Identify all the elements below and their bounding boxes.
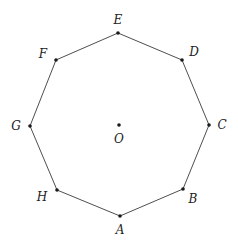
vertex-label-f: F <box>38 47 48 61</box>
vertex-point-g <box>28 124 32 128</box>
vertex-label-h: H <box>36 190 48 204</box>
vertex-label-c: C <box>217 118 226 132</box>
vertex-point-a <box>118 214 122 218</box>
octagon-diagram: ABCDEFGHO <box>0 0 238 245</box>
vertex-point-b <box>181 187 185 191</box>
vertex-label-d: D <box>188 45 199 59</box>
points-layer <box>28 31 211 218</box>
vertex-label-b: B <box>188 192 198 206</box>
vertex-point-f <box>54 58 58 62</box>
vertex-point-h <box>55 188 59 192</box>
vertex-label-g: G <box>11 119 21 133</box>
vertex-label-e: E <box>113 13 123 27</box>
vertex-point-c <box>207 123 211 127</box>
center-point-o <box>117 123 121 127</box>
vertex-label-a: A <box>115 223 125 237</box>
vertex-point-d <box>180 58 184 62</box>
center-label-o: O <box>114 132 124 146</box>
vertex-point-e <box>116 31 120 35</box>
